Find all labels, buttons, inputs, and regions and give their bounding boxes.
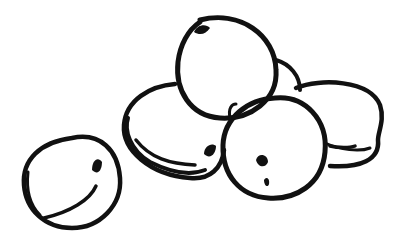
fruit-front-right [223,98,325,198]
fruit-top [178,18,276,118]
fruit-middle-left [124,84,224,178]
fruit-right [296,82,382,166]
stem-spot [92,159,102,172]
crease-mark [264,178,269,186]
stem-spot [256,155,268,166]
apricots-illustration [0,0,403,250]
fruit-left [24,137,120,228]
stem-spot [204,144,216,156]
